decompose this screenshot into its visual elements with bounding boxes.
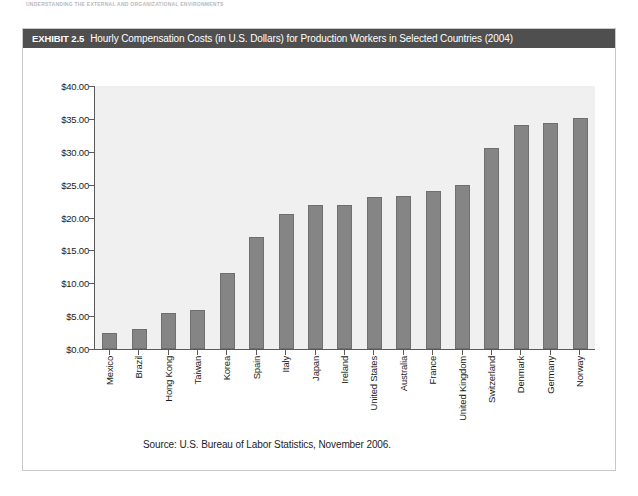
exhibit-number-label: EXHIBIT 2.5 bbox=[32, 33, 84, 44]
bar-germany bbox=[543, 123, 558, 349]
x-axis-tick-label: United States bbox=[373, 302, 384, 356]
bar-slot bbox=[124, 86, 153, 349]
bar-slot bbox=[507, 86, 536, 349]
x-axis-tick-label: Japan bbox=[315, 331, 326, 356]
exhibit-container: EXHIBIT 2.5 Hourly Compensation Costs (i… bbox=[22, 28, 616, 471]
exhibit-title-bar: EXHIBIT 2.5 Hourly Compensation Costs (i… bbox=[23, 29, 615, 48]
x-axis-tick-label-text: Italy bbox=[280, 356, 291, 372]
y-axis-tick-mark bbox=[89, 250, 94, 251]
y-axis-tick-label: $35.00 bbox=[61, 113, 89, 124]
bar-italy bbox=[279, 214, 294, 349]
bar-denmark bbox=[514, 125, 529, 349]
bar-slot bbox=[271, 86, 300, 349]
x-axis-tick-label-text: Japan bbox=[309, 356, 320, 381]
bar-france bbox=[426, 191, 441, 349]
bar-slot bbox=[330, 86, 359, 349]
x-axis-tick-label: Mexico bbox=[109, 327, 120, 356]
y-axis-tick-mark bbox=[89, 316, 94, 317]
y-axis-tick-label: $20.00 bbox=[61, 212, 89, 223]
y-axis-tick-label: $10.00 bbox=[61, 278, 89, 289]
bar-slot bbox=[242, 86, 271, 349]
x-axis-tick-label: Ireland bbox=[344, 328, 355, 356]
exhibit-title-text: Hourly Compensation Costs (in U.S. Dolla… bbox=[90, 33, 513, 44]
bar-japan bbox=[308, 205, 323, 349]
y-axis-tick-label: $15.00 bbox=[61, 245, 89, 256]
x-axis-tick-label-text: Hong Kong bbox=[162, 356, 173, 402]
x-axis-tick-label-text: Brazil bbox=[133, 356, 144, 379]
source-note: Source: U.S. Bureau of Labor Statistics,… bbox=[143, 439, 391, 450]
x-axis-tick-label-text: France bbox=[427, 356, 438, 384]
y-axis-tick-mark bbox=[89, 283, 94, 284]
x-axis-tick-label-text: Denmark bbox=[515, 356, 526, 393]
x-axis-tick-label-text: Norway bbox=[574, 356, 585, 387]
x-axis-tick-label: Germany bbox=[550, 318, 561, 356]
bar-slot bbox=[536, 86, 565, 349]
x-axis-tick-label: Korea bbox=[226, 332, 237, 356]
bar-norway bbox=[573, 118, 588, 349]
x-axis-tick-label: Norway bbox=[579, 325, 590, 356]
x-axis-tick-label: Hong Kong bbox=[168, 310, 179, 356]
x-axis-tick-label: Taiwan bbox=[197, 328, 208, 356]
y-axis-tick-label: $25.00 bbox=[61, 179, 89, 190]
y-axis-tick-mark bbox=[89, 152, 94, 153]
y-axis-tick-mark bbox=[89, 185, 94, 186]
x-axis-tick-label-text: Korea bbox=[221, 356, 232, 380]
y-axis-tick-mark bbox=[89, 218, 94, 219]
bar-slot bbox=[418, 86, 447, 349]
y-axis-tick-label: $40.00 bbox=[61, 81, 89, 92]
bar-slot bbox=[566, 86, 595, 349]
x-axis-tick-label-text: Spain bbox=[250, 356, 261, 379]
x-axis-tick-label: Spain bbox=[256, 333, 267, 356]
bar-slot bbox=[213, 86, 242, 349]
x-axis-tick-label-text: Taiwan bbox=[191, 356, 202, 384]
y-axis-tick-mark bbox=[89, 349, 94, 350]
x-axis-tick-label-text: United Kingdom bbox=[456, 356, 467, 421]
x-axis-tick-label-text: Australia bbox=[397, 356, 408, 391]
x-axis-tick-label-text: Switzerland bbox=[486, 356, 497, 403]
y-axis-labels: $0.00$5.00$10.00$15.00$20.00$25.00$30.00… bbox=[23, 48, 89, 472]
y-axis-tick-label: $30.00 bbox=[61, 146, 89, 157]
x-axis-tick-label-text: Germany bbox=[544, 356, 555, 394]
chart-canvas: $0.00$5.00$10.00$15.00$20.00$25.00$30.00… bbox=[23, 48, 615, 472]
x-axis-tick-label: Brazil bbox=[138, 333, 149, 356]
bar-slot bbox=[301, 86, 330, 349]
x-axis-tick-label: United Kingdom bbox=[462, 291, 473, 356]
bar-slot bbox=[95, 86, 124, 349]
page-running-head: UNDERSTANDING THE EXTERNAL AND ORGANIZAT… bbox=[26, 1, 224, 7]
bar-slot bbox=[389, 86, 418, 349]
x-axis-tick-label-text: United States bbox=[368, 356, 379, 410]
x-axis-tick-label: Italy bbox=[285, 340, 296, 356]
bar-slot bbox=[183, 86, 212, 349]
x-axis-tick-label-text: Mexico bbox=[103, 356, 114, 385]
x-axis-tick-label: Denmark bbox=[520, 319, 531, 356]
y-axis-tick-mark bbox=[89, 119, 94, 120]
y-axis-tick-label: $0.00 bbox=[66, 344, 89, 355]
x-axis-tick-label: Switzerland bbox=[491, 309, 502, 356]
x-axis-tick-label-text: Ireland bbox=[339, 356, 350, 384]
y-axis-tick-label: $5.00 bbox=[66, 311, 89, 322]
y-axis-tick-mark bbox=[89, 86, 94, 87]
x-axis-tick-label: Australia bbox=[403, 321, 414, 356]
x-axis-tick-label: France bbox=[432, 328, 443, 356]
